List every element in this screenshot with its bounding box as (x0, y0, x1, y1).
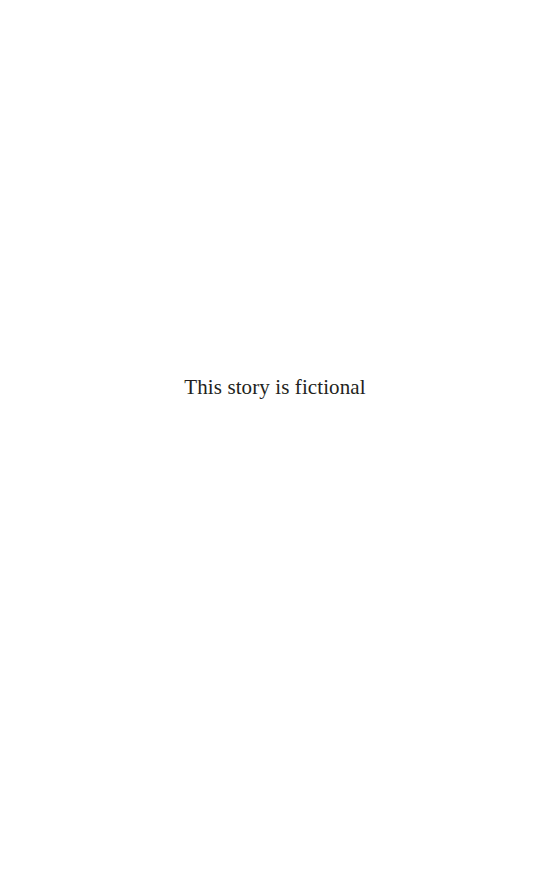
book-page: This story is fictional (0, 0, 550, 882)
fiction-disclaimer: This story is fictional (0, 372, 550, 402)
